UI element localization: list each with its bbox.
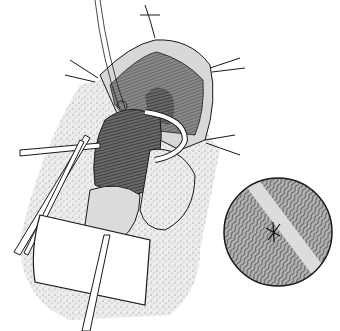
magnified-inset xyxy=(220,175,340,295)
illustration-svg xyxy=(0,0,340,331)
surgical-illustration xyxy=(0,0,340,331)
